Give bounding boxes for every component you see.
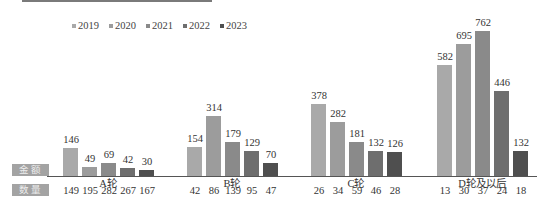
- row-label-amount: 金额: [12, 164, 49, 176]
- bar-chart: 金额 数量 14614949195692824226730167A轮154423…: [0, 0, 540, 208]
- value-label: 132: [506, 137, 536, 148]
- value-label: 126: [380, 138, 410, 149]
- value-label: 762: [468, 17, 498, 28]
- value-label: 70: [256, 149, 286, 160]
- bar-C轮-2022: [368, 151, 383, 176]
- category-label: B轮: [192, 175, 272, 190]
- bar-C轮-2023: [387, 152, 402, 176]
- bar-D轮及以后-2020: [456, 44, 471, 176]
- value-label: 446: [487, 77, 517, 88]
- value-label: 282: [323, 108, 353, 119]
- value-label: 146: [56, 134, 86, 145]
- category-label: C轮: [316, 175, 396, 190]
- value-label: 129: [237, 137, 267, 148]
- value-label: 378: [304, 90, 334, 101]
- bar-D轮及以后-2023: [513, 151, 528, 176]
- bar-D轮及以后-2019: [437, 65, 452, 176]
- value-label: 314: [199, 102, 229, 113]
- category-label: A轮: [68, 175, 148, 190]
- category-label: D轮及以后: [442, 175, 522, 190]
- value-label: 30: [132, 156, 162, 167]
- bar-B轮-2019: [187, 147, 202, 176]
- bar-B轮-2020: [206, 116, 221, 176]
- row-label-count: 数量: [12, 184, 49, 196]
- bar-D轮及以后-2021: [475, 31, 490, 176]
- bar-D轮及以后-2022: [494, 91, 509, 176]
